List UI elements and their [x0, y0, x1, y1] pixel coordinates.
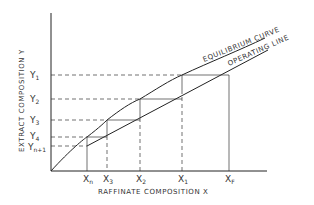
x-tick-x3: X3: [103, 174, 113, 185]
y-tick-y4: Y4: [29, 131, 40, 142]
y-tick-y1: Y1: [29, 70, 40, 81]
x-axis-title: RAFFINATE COMPOSITION X: [98, 188, 208, 196]
x-tick-x2: X2: [136, 174, 146, 185]
y-tick-y2: Y2: [29, 94, 40, 105]
x-tick-xf: XF: [225, 174, 235, 185]
operating-line: [87, 50, 268, 146]
y-axis-title: EXTRACT COMPOSITION Y: [18, 49, 26, 152]
y-tick-yn1: Yn+1: [27, 142, 46, 153]
x-tick-xn: Xn: [83, 174, 93, 185]
extraction-stage-diagram: EQUILIBRIUM CURVE OPERATING LINE RAFFINA…: [0, 0, 314, 205]
y-tick-y3: Y3: [29, 115, 40, 126]
x-tick-x1: X1: [178, 174, 188, 185]
